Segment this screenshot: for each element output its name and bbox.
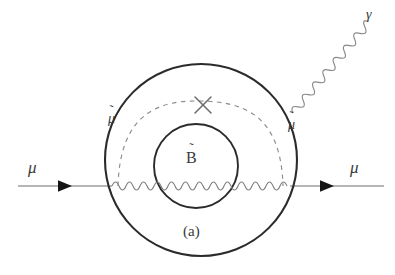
incoming-muon-label: μ <box>28 159 37 176</box>
subfigure-caption: (a) <box>183 224 200 239</box>
smuon-left-glyph: ˜ μ <box>108 112 115 126</box>
external-photon-wave <box>289 20 371 116</box>
tilde-accent-icon: ˜ <box>290 110 294 122</box>
internal-photon-wave <box>112 182 287 190</box>
tilde-accent-icon: ˜ <box>110 104 114 116</box>
bino-inner-loop <box>154 124 238 208</box>
outgoing-muon-label: μ <box>350 159 359 176</box>
smuon-right-label: ˜ μ <box>288 118 295 132</box>
smuon-right-glyph: ˜ μ <box>288 118 295 132</box>
photon-label: γ <box>366 8 372 22</box>
tilde-accent-icon: ˜ <box>189 141 193 154</box>
smuon-left-label: ˜ μ <box>108 112 115 126</box>
bino-glyph: ˜ B <box>186 150 197 166</box>
arrow-right-icon <box>320 180 334 192</box>
feynman-diagram-figure: μ μ ˜ μ ˜ μ ˜ B γ (a) <box>0 0 395 275</box>
arrow-right-icon <box>58 180 72 192</box>
cross-icon <box>195 97 211 113</box>
bino-label: ˜ B <box>186 150 197 166</box>
smuon-dashed-arc <box>118 101 283 186</box>
smuon-outer-loop <box>105 64 297 256</box>
